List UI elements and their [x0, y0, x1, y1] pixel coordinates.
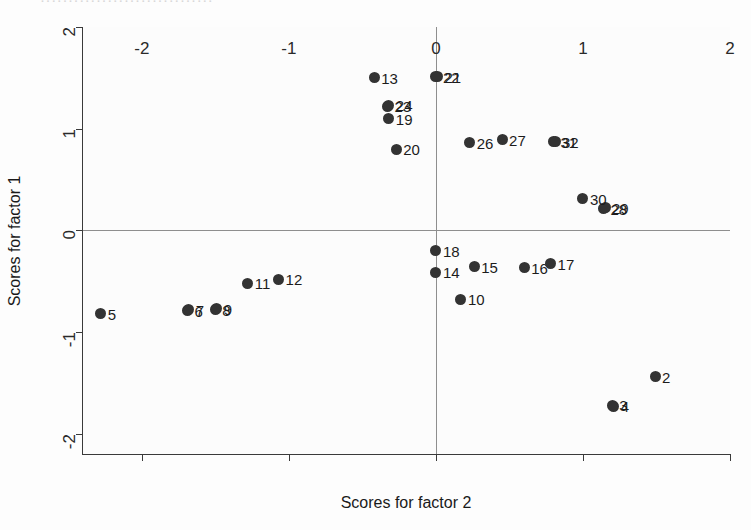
- data-point-label: 26: [477, 134, 494, 151]
- scanned-page: ······························· Scores f…: [0, 0, 751, 530]
- data-point[interactable]: [391, 144, 402, 155]
- data-point[interactable]: [608, 401, 619, 412]
- x-tick: [730, 454, 731, 461]
- data-point[interactable]: [369, 72, 380, 83]
- y-tick-label: 2: [60, 27, 80, 36]
- y-tick-label: 0: [60, 230, 80, 239]
- data-point-label: 12: [286, 271, 303, 288]
- data-point[interactable]: [464, 137, 475, 148]
- x-tick-label: 0: [431, 39, 440, 59]
- scatter-plot-figure: Scores for factor 1 -2-1012-2-1012234567…: [0, 0, 751, 530]
- data-point-label: 29: [612, 199, 629, 216]
- data-point[interactable]: [430, 245, 441, 256]
- data-point[interactable]: [455, 294, 466, 305]
- data-point[interactable]: [469, 261, 480, 272]
- data-point-label: 7: [196, 301, 204, 318]
- data-point-label: 13: [381, 69, 398, 86]
- reference-line-vertical: [436, 27, 437, 454]
- x-tick-label: 2: [725, 39, 734, 59]
- data-point[interactable]: [430, 267, 441, 278]
- x-axis-title: Scores for factor 2: [82, 494, 730, 512]
- data-point-label: 4: [621, 398, 629, 415]
- data-point-label: 27: [509, 131, 526, 148]
- data-point-label: 11: [255, 275, 271, 292]
- data-point[interactable]: [95, 308, 106, 319]
- data-point[interactable]: [211, 303, 222, 314]
- data-point[interactable]: [383, 100, 394, 111]
- data-point-label: 10: [468, 291, 485, 308]
- data-point[interactable]: [650, 371, 661, 382]
- y-tick-label: -2: [60, 434, 80, 449]
- y-axis-title-text: Scores for factor 1: [6, 176, 24, 307]
- x-tick-label: -2: [134, 39, 149, 59]
- data-point-label: 14: [443, 264, 460, 281]
- y-tick-label: -1: [60, 332, 80, 347]
- data-point-label: 17: [558, 255, 575, 272]
- x-tick: [142, 454, 143, 461]
- data-point[interactable]: [383, 113, 394, 124]
- y-tick-label: 1: [60, 129, 80, 138]
- data-point-label: 32: [562, 133, 579, 150]
- data-point-label: 15: [481, 258, 498, 275]
- data-point-label: 9: [224, 300, 232, 317]
- data-point[interactable]: [577, 193, 588, 204]
- data-point[interactable]: [242, 278, 253, 289]
- data-point[interactable]: [545, 258, 556, 269]
- data-point[interactable]: [183, 304, 194, 315]
- data-point[interactable]: [497, 134, 508, 145]
- x-tick: [289, 454, 290, 461]
- data-point-label: 24: [396, 97, 413, 114]
- reference-line-horizontal: [83, 230, 730, 231]
- plot-area: -2-1012-2-101223456789101112131415161718…: [82, 27, 730, 455]
- data-point[interactable]: [519, 262, 530, 273]
- data-point-label: 18: [443, 242, 460, 259]
- data-point-label: 20: [403, 141, 420, 158]
- data-point-label: 5: [108, 305, 116, 322]
- x-tick: [436, 454, 437, 461]
- data-point[interactable]: [273, 274, 284, 285]
- data-point-label: 2: [662, 368, 670, 385]
- x-tick-label: 1: [578, 39, 587, 59]
- x-tick: [583, 454, 584, 461]
- data-point-label: 22: [443, 68, 460, 85]
- y-axis-title: Scores for factor 1: [4, 27, 26, 455]
- data-point-label: 30: [590, 190, 607, 207]
- x-tick-label: -1: [281, 39, 296, 59]
- data-point[interactable]: [550, 136, 561, 147]
